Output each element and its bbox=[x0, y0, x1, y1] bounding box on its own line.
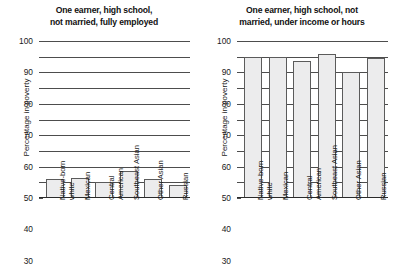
x-axis-tick-label-line2: white bbox=[266, 161, 275, 200]
x-axis-tick-label-line1: Southeast Asian bbox=[330, 145, 339, 200]
chart-title-right-line1: One earner, high school, not bbox=[212, 5, 392, 17]
y-axis-tick-label: 70 bbox=[24, 131, 33, 139]
y-axis-tick-label: 100 bbox=[19, 37, 33, 45]
y-axis-tick: 0 bbox=[39, 198, 43, 199]
x-axis-tick-label: Southeast Asian bbox=[133, 145, 142, 200]
x-axis-tick-label-line1: Native-born bbox=[256, 161, 265, 200]
y-axis-tick-label: 90 bbox=[222, 68, 231, 76]
x-axis-tick-label: Other Asian bbox=[355, 160, 364, 200]
x-axis-tick-label: Southeast Asian bbox=[331, 145, 340, 200]
y-axis-tick-label: 60 bbox=[222, 162, 231, 170]
y-axis-tick-label: 30 bbox=[24, 257, 33, 265]
x-axis-tick-label-line1: Other Asian bbox=[354, 160, 363, 200]
x-axis-tick-label: Native-bornwhite bbox=[59, 161, 76, 200]
x-axis-tick-label: Russian bbox=[380, 173, 389, 200]
chart-panel-right: One earner, high school, not married, un… bbox=[198, 0, 396, 275]
y-axis-tick-label: 50 bbox=[222, 194, 231, 202]
chart-title-left-line2: not married, fully employed bbox=[14, 17, 194, 29]
chart-title-left-line1: One earner, high school, bbox=[14, 5, 194, 17]
x-axis-tick-label-line1: Mexican bbox=[83, 172, 92, 200]
y-axis-tick-label: 60 bbox=[24, 162, 33, 170]
x-axis-tick-label-line1: Russian bbox=[181, 173, 190, 200]
y-axis-tick-label: 90 bbox=[24, 68, 33, 76]
chart-title-right-line2: married, under income or hours bbox=[212, 17, 392, 29]
x-axis-labels-right: Native-bornwhiteMexicanCentralAmericanSo… bbox=[241, 200, 388, 275]
y-axis-tick-label: 100 bbox=[217, 37, 231, 45]
x-axis-tick-label: Mexican bbox=[282, 172, 291, 200]
y-axis-tick-label: 40 bbox=[222, 225, 231, 233]
x-axis-tick-label: Other Asian bbox=[157, 160, 166, 200]
y-axis-tick-label: 80 bbox=[24, 100, 33, 108]
x-axis-tick-label-line1: Central bbox=[305, 176, 314, 200]
x-axis-labels-left: Native-bornwhiteMexicanCentralAmericanSo… bbox=[43, 200, 190, 275]
x-axis-tick-label-line1: Russian bbox=[379, 173, 388, 200]
y-axis-tick-label: 40 bbox=[24, 225, 33, 233]
x-axis-tick-label: Russian bbox=[182, 173, 191, 200]
y-axis-tick-label: 70 bbox=[222, 131, 231, 139]
y-axis-tick-label: 30 bbox=[222, 257, 231, 265]
x-axis-tick-label: Native-bornwhite bbox=[257, 161, 274, 200]
x-axis-tick-label-line1: Mexican bbox=[281, 172, 290, 200]
y-axis-tick-label: 80 bbox=[222, 100, 231, 108]
x-axis-tick-label-line2: American bbox=[315, 168, 324, 200]
y-axis-tick: 0 bbox=[237, 198, 241, 199]
chart-title-right: One earner, high school, not married, un… bbox=[212, 5, 392, 28]
two-panel-bar-chart-figure: One earner, high school, not married, fu… bbox=[0, 0, 396, 275]
x-axis-tick-label: CentralAmerican bbox=[306, 168, 323, 200]
x-axis-tick-label-line1: Native-born bbox=[58, 161, 67, 200]
chart-title-left: One earner, high school, not married, fu… bbox=[14, 5, 194, 28]
chart-panel-left: One earner, high school, not married, fu… bbox=[0, 0, 198, 275]
x-axis-tick-label-line1: Southeast Asian bbox=[132, 145, 141, 200]
x-axis-tick-label-line1: Other Asian bbox=[156, 160, 165, 200]
x-axis-tick-label-line1: Central bbox=[107, 176, 116, 200]
x-axis-tick-label: Mexican bbox=[84, 172, 93, 200]
y-axis-tick-label: 50 bbox=[24, 194, 33, 202]
x-axis-tick-label: CentralAmerican bbox=[108, 168, 125, 200]
x-axis-tick-label-line2: American bbox=[117, 168, 126, 200]
x-axis-tick-label-line2: white bbox=[68, 161, 77, 200]
